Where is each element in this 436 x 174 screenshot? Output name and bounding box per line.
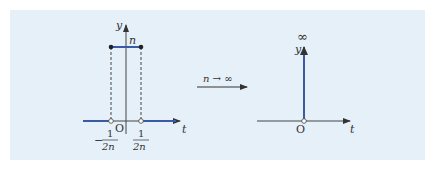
limit-label: n → ∞ [203, 73, 233, 84]
right-plot: ∞ y t O [257, 29, 355, 136]
left-bound-denominator: 2n [101, 141, 115, 152]
infinity-label: ∞ [297, 29, 308, 44]
t-label: t [182, 123, 187, 136]
filled-dot-right [139, 45, 144, 50]
origin-label: O [296, 123, 305, 136]
diagram: y n t O − 1 2n 1 2n n → ∞ ∞ y t O [0, 0, 436, 174]
y-label: y [115, 19, 123, 32]
left-bound-numerator: 1 [107, 128, 113, 139]
left-plot: y n t O − 1 2n 1 2n [83, 19, 187, 152]
right-bound-denominator: 2n [132, 141, 146, 152]
open-dot-right [139, 119, 144, 124]
limit-arrow: n → ∞ [197, 73, 247, 87]
open-dot-left [109, 119, 114, 124]
origin-label: O [115, 122, 124, 135]
filled-dot-left [109, 45, 114, 50]
y-label: y [294, 43, 302, 56]
right-bound-numerator: 1 [138, 128, 144, 139]
t-label: t [350, 123, 355, 136]
height-label: n [129, 34, 136, 47]
